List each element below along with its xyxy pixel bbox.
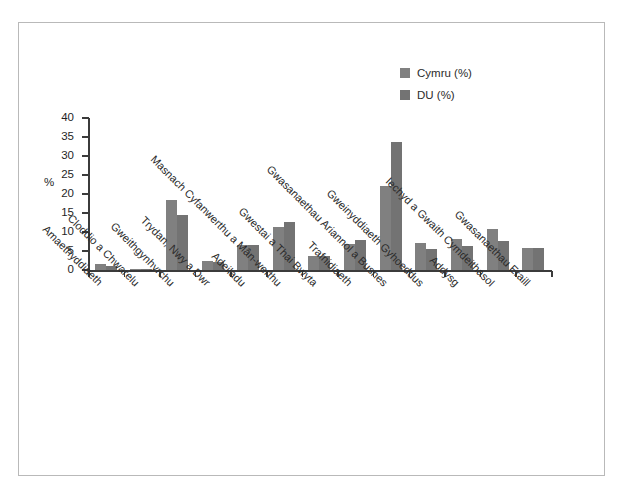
legend-swatch-icon-du xyxy=(400,90,410,100)
legend-item-cymru: Cymru (%) xyxy=(400,66,472,80)
legend-label-cymru: Cymru (%) xyxy=(417,67,472,79)
y-axis-tick-label: 30 xyxy=(48,150,74,161)
bar-group xyxy=(515,118,551,270)
y-axis-tick-label: 20 xyxy=(48,188,74,199)
bar-cymru xyxy=(202,261,213,270)
bar-cymru xyxy=(522,248,533,270)
legend-label-du: DU (%) xyxy=(417,89,455,101)
bar-group xyxy=(409,118,445,270)
chart-legend: Cymru (%) DU (%) xyxy=(400,66,472,102)
chart-page: Cymru (%) DU (%) % 0510152025303540 Amae… xyxy=(0,0,625,496)
y-axis-tick-label: 25 xyxy=(48,169,74,180)
x-axis-tick xyxy=(551,271,553,277)
bar-group xyxy=(195,118,231,270)
y-axis-tick-label: 40 xyxy=(48,112,74,123)
y-axis-tick-label: 0 xyxy=(48,264,74,275)
bar-du xyxy=(533,248,544,270)
legend-item-du: DU (%) xyxy=(400,88,472,102)
bar-cymru xyxy=(415,243,426,270)
y-axis-tick-label: 35 xyxy=(48,131,74,142)
bar-cymru xyxy=(95,264,106,270)
legend-swatch-icon-cymru xyxy=(400,68,410,78)
